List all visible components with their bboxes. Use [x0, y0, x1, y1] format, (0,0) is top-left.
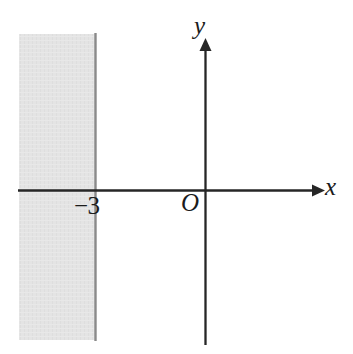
y-axis-label: y [194, 13, 205, 38]
x-axis-tick-label-neg3: −3 [74, 193, 100, 218]
y-axis-arrowhead [200, 38, 212, 51]
origin-label: O [181, 190, 199, 215]
coordinate-plane-figure: y x O −3 [0, 0, 353, 354]
x-axis-arrowhead [312, 185, 325, 197]
graph-canvas [0, 0, 353, 354]
x-axis-label: x [325, 174, 336, 199]
shaded-region [19, 34, 96, 340]
